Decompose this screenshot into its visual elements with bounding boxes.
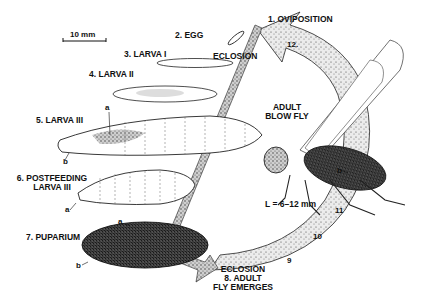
stage-label-postfeeding-line2: LARVA III xyxy=(16,183,88,192)
egg-illustration xyxy=(227,30,246,47)
part-letter-b-puparium: b xyxy=(76,261,81,270)
part-letter-b-larva3: b xyxy=(63,157,68,166)
arrow-number-11: 11 xyxy=(335,206,343,215)
stage-label-oviposition: 1. OVIPOSITION xyxy=(268,15,333,24)
stage-label-postfeeding: 6. POSTFEEDING LARVA III xyxy=(16,174,88,192)
stage-label-larva-2: 4. LARVA II xyxy=(89,70,134,79)
larva-3-illustration xyxy=(58,116,262,156)
postfeeding-larva-illustration xyxy=(78,170,195,205)
arrow-number-10: 10 xyxy=(313,232,322,241)
stage-label-adult-emerges-line2: FLY EMERGES xyxy=(203,283,283,292)
puparium-illustration xyxy=(82,222,208,268)
adult-size-label: L = 6–12 mm xyxy=(265,200,316,209)
stage-label-puparium: 7. PUPARIUM xyxy=(26,233,80,242)
part-letter-a-larva3: a xyxy=(105,103,109,112)
part-letter-a-postfeeding: a xyxy=(65,205,69,214)
stage-label-larva-1: 3. LARVA I xyxy=(124,50,166,59)
arrow-number-9: 9 xyxy=(287,256,291,265)
part-letter-b-fly: b xyxy=(337,166,342,175)
arrow-number-12: 12. xyxy=(287,40,298,49)
scale-bar-label: 10 mm xyxy=(70,31,95,39)
eclosion-label-top: ECLOSION xyxy=(213,52,257,61)
adult-fly-label-line2: BLOW FLY xyxy=(262,112,312,121)
diagram-artwork xyxy=(0,0,425,307)
stage-label-egg: 2. EGG xyxy=(175,31,203,40)
part-letter-a-puparium: a xyxy=(118,217,122,226)
stage-label-larva-3: 5. LARVA III xyxy=(36,116,83,125)
life-cycle-diagram: 10 mm 1. OVIPOSITION 2. EGG ECLOSION 3. … xyxy=(0,0,425,307)
stage-label-adult-emerges: ECLOSION 8. ADULT FLY EMERGES xyxy=(203,265,283,292)
adult-fly-label: ADULT BLOW FLY xyxy=(262,103,312,121)
